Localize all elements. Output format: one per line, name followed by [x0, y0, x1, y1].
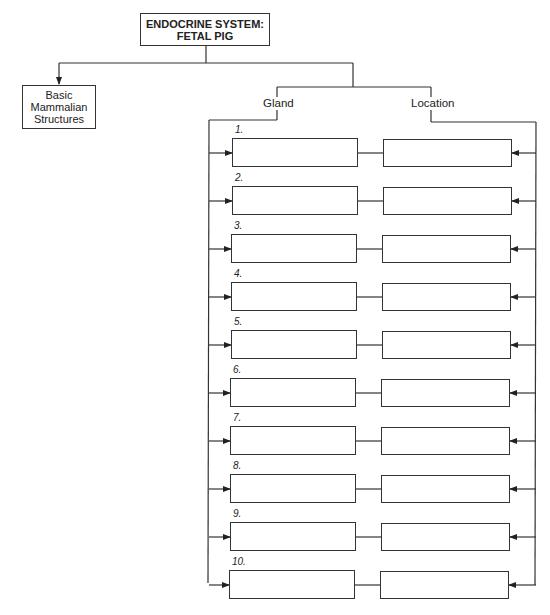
gland-field[interactable] [232, 138, 358, 167]
location-field[interactable] [381, 523, 510, 551]
basic-line-3: Structures [31, 113, 88, 125]
row-number: 6. [233, 364, 241, 375]
gland-field[interactable] [230, 378, 356, 407]
gland-field[interactable] [230, 426, 356, 455]
location-field[interactable] [383, 139, 512, 167]
row-number: 1. [235, 124, 243, 135]
row-number: 5. [234, 316, 242, 327]
title-line-1: ENDOCRINE SYSTEM: [146, 18, 264, 30]
row-number: 4. [234, 268, 242, 279]
location-header: Location [411, 97, 454, 109]
location-field[interactable] [381, 475, 510, 503]
gland-field[interactable] [231, 234, 357, 263]
location-field[interactable] [381, 379, 510, 407]
row-number: 8. [233, 460, 241, 471]
gland-field[interactable] [230, 522, 356, 551]
row-number: 10. [232, 556, 246, 567]
basic-line-2: Mammalian [31, 101, 88, 113]
basic-line-1: Basic [31, 89, 88, 101]
gland-header: Gland [263, 97, 294, 109]
title-line-2: FETAL PIG [146, 30, 264, 42]
gland-field[interactable] [231, 330, 357, 359]
location-field[interactable] [383, 187, 512, 215]
gland-field[interactable] [229, 570, 355, 599]
row-number: 2. [235, 172, 243, 183]
location-field[interactable] [380, 571, 509, 599]
location-field[interactable] [382, 331, 511, 359]
row-number: 7. [233, 412, 241, 423]
row-number: 9. [233, 508, 241, 519]
gland-field[interactable] [232, 186, 358, 215]
location-field[interactable] [382, 235, 511, 263]
basic-mammalian-structures-box: Basic Mammalian Structures [22, 85, 96, 129]
gland-field[interactable] [230, 474, 356, 503]
location-field[interactable] [382, 283, 511, 311]
gland-field[interactable] [231, 282, 357, 311]
row-number: 3. [234, 220, 242, 231]
location-field[interactable] [381, 427, 510, 455]
title-box: ENDOCRINE SYSTEM: FETAL PIG [140, 13, 270, 46]
